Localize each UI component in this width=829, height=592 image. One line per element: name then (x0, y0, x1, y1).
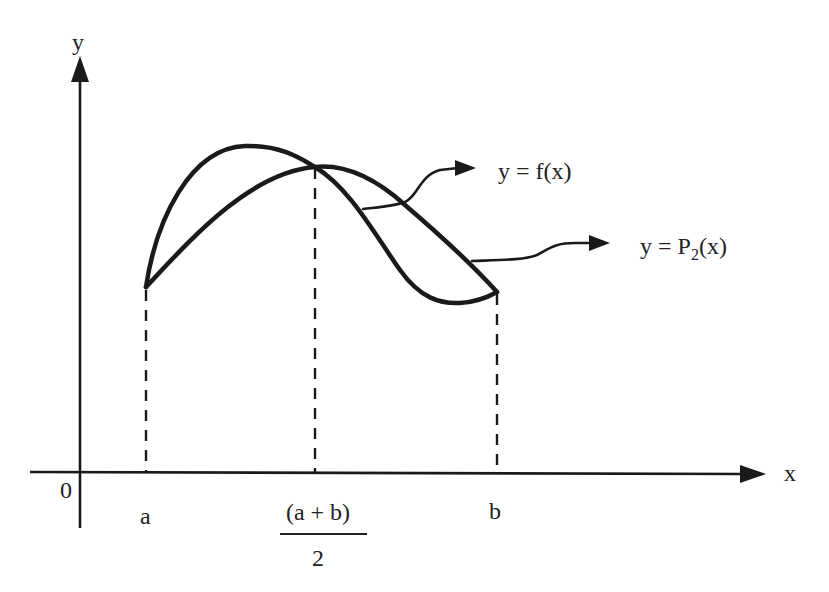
label-P2: y = P2(x) (640, 233, 727, 263)
tick-label-midpoint: (a + b) 2 (280, 499, 367, 571)
pointer-P2-arrow-icon (589, 235, 610, 251)
label-P2-main: y = P (640, 233, 691, 259)
x-axis-label: x (784, 460, 796, 486)
pointer-f (363, 168, 458, 209)
origin-label: 0 (60, 477, 72, 503)
x-axis-arrow-icon (740, 465, 766, 483)
pointer-f-arrow-icon (455, 160, 476, 176)
tick-label-b: b (489, 498, 501, 524)
label-P2-suffix: (x) (699, 233, 727, 259)
y-axis: y (71, 29, 89, 528)
midpoint-numerator: (a + b) (286, 499, 350, 525)
y-axis-label: y (72, 29, 84, 55)
x-axis-line (30, 472, 745, 474)
y-axis-arrow-icon (71, 56, 89, 82)
curve-P2 (146, 167, 497, 292)
label-P2-subscript: 2 (691, 246, 699, 263)
label-f: y = f(x) (498, 158, 572, 184)
tick-label-a: a (140, 503, 151, 529)
pointer-P2 (472, 243, 592, 261)
diagram-canvas: y x 0 a b (a + b) 2 y = f(x) y = P2(x) (0, 0, 829, 592)
midpoint-denominator: 2 (312, 545, 324, 571)
x-axis: x 0 (30, 460, 796, 503)
